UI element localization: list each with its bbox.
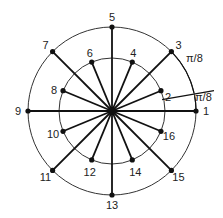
point-label-5: 5 bbox=[109, 11, 115, 23]
constellation-point bbox=[50, 49, 55, 54]
point-label-14: 14 bbox=[129, 166, 141, 178]
constellation-point bbox=[89, 59, 94, 64]
constellation-point bbox=[130, 157, 135, 162]
constellation-point bbox=[60, 88, 65, 93]
point-label-9: 9 bbox=[15, 105, 21, 117]
point-label-6: 6 bbox=[87, 47, 93, 59]
point-label-10: 10 bbox=[47, 128, 59, 140]
spoke-line bbox=[112, 52, 171, 111]
origin-point bbox=[108, 107, 116, 115]
point-label-15: 15 bbox=[172, 171, 184, 183]
constellation-point bbox=[109, 24, 114, 29]
spoke-line bbox=[53, 111, 112, 170]
point-label-3: 3 bbox=[175, 39, 181, 51]
point-label-4: 4 bbox=[130, 47, 136, 59]
constellation-diagram: 12345678910111213141516π/8π/8 bbox=[0, 0, 223, 218]
angle-annotation: π/8 bbox=[186, 52, 203, 64]
point-label-2: 2 bbox=[165, 91, 171, 103]
point-label-16: 16 bbox=[163, 130, 175, 142]
point-label-11: 11 bbox=[40, 171, 51, 183]
constellation-point bbox=[25, 108, 30, 113]
point-label-7: 7 bbox=[42, 39, 48, 51]
constellation-point bbox=[130, 59, 135, 64]
constellation-point bbox=[109, 192, 114, 197]
constellation-point bbox=[89, 157, 94, 162]
angle-annotation: π/8 bbox=[195, 91, 212, 103]
point-label-12: 12 bbox=[84, 166, 96, 178]
point-label-13: 13 bbox=[106, 199, 118, 211]
point-label-8: 8 bbox=[51, 84, 57, 96]
spoke-line bbox=[53, 52, 112, 111]
point-label-1: 1 bbox=[203, 105, 209, 117]
constellation-point bbox=[158, 88, 163, 93]
constellation-point bbox=[60, 129, 65, 134]
